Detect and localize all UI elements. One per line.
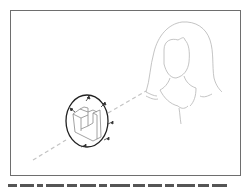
figure-caption xyxy=(8,181,248,187)
arrow-icon xyxy=(108,121,113,124)
figure-illustration xyxy=(0,0,249,187)
figure xyxy=(0,0,249,187)
oval-lens xyxy=(66,95,108,147)
caption-clipped-glyphs xyxy=(8,184,227,187)
arrow-icon xyxy=(104,137,109,140)
woman-head-outline xyxy=(146,22,222,124)
